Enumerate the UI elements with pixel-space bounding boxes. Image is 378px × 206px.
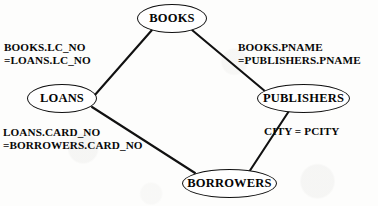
entity-node-label: PUBLISHERS — [263, 91, 344, 106]
edge-label-publishers-borrowers: CITY = PCITY — [264, 125, 340, 138]
edge-label-line-2: =LOANS.LC_NO — [4, 54, 91, 67]
join-condition-diagram: BOOKS LOANS PUBLISHERS BORROWERS BOOKS.L… — [0, 0, 378, 206]
entity-node-label: BORROWERS — [187, 176, 271, 191]
edge-label-loans-borrowers: LOANS.CARD_NO =BORROWERS.CARD_NO — [3, 126, 143, 153]
edge-publishers-borrowers — [249, 111, 289, 172]
edge-label-line-1: BOOKS.PNAME — [238, 41, 361, 54]
edge-books-loans — [94, 30, 152, 96]
edge-label-line-1: LOANS.CARD_NO — [3, 126, 143, 139]
entity-node-borrowers[interactable]: BORROWERS — [182, 169, 277, 198]
entity-node-books[interactable]: BOOKS — [137, 4, 207, 33]
edge-label-line-2: =BORROWERS.CARD_NO — [3, 139, 143, 152]
entity-node-publishers[interactable]: PUBLISHERS — [257, 84, 350, 113]
edge-label-line-1: CITY = PCITY — [264, 125, 340, 138]
entity-node-loans[interactable]: LOANS — [27, 84, 97, 113]
edge-label-line-2: =PUBLISHERS.PNAME — [238, 54, 361, 67]
edge-label-books-publishers: BOOKS.PNAME =PUBLISHERS.PNAME — [238, 41, 361, 68]
edge-label-books-loans: BOOKS.LC_NO =LOANS.LC_NO — [4, 41, 91, 68]
entity-node-label: LOANS — [40, 91, 84, 106]
edge-label-line-1: BOOKS.LC_NO — [4, 41, 91, 54]
entity-node-label: BOOKS — [149, 11, 194, 26]
